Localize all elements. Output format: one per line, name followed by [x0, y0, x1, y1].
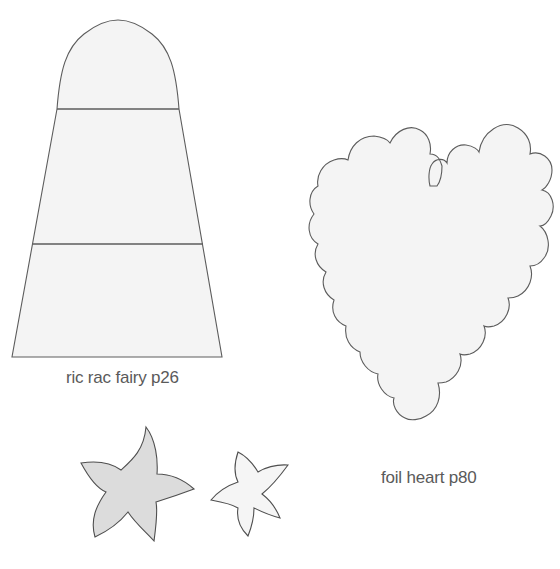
foil-heart-template [309, 125, 553, 420]
fairy-body-outline [12, 20, 222, 357]
large-flower-template [81, 427, 194, 541]
large-flower-outline [81, 427, 194, 541]
heart-caption: foil heart p80 [381, 469, 477, 486]
small-flower-template [211, 452, 288, 536]
fairy-body-template [12, 20, 222, 357]
template-page: ric rac fairy p26 foil heart p80 [0, 0, 560, 569]
small-flower-outline [211, 452, 288, 536]
fairy-caption: ric rac fairy p26 [66, 369, 179, 386]
foil-heart-outline [309, 125, 553, 420]
